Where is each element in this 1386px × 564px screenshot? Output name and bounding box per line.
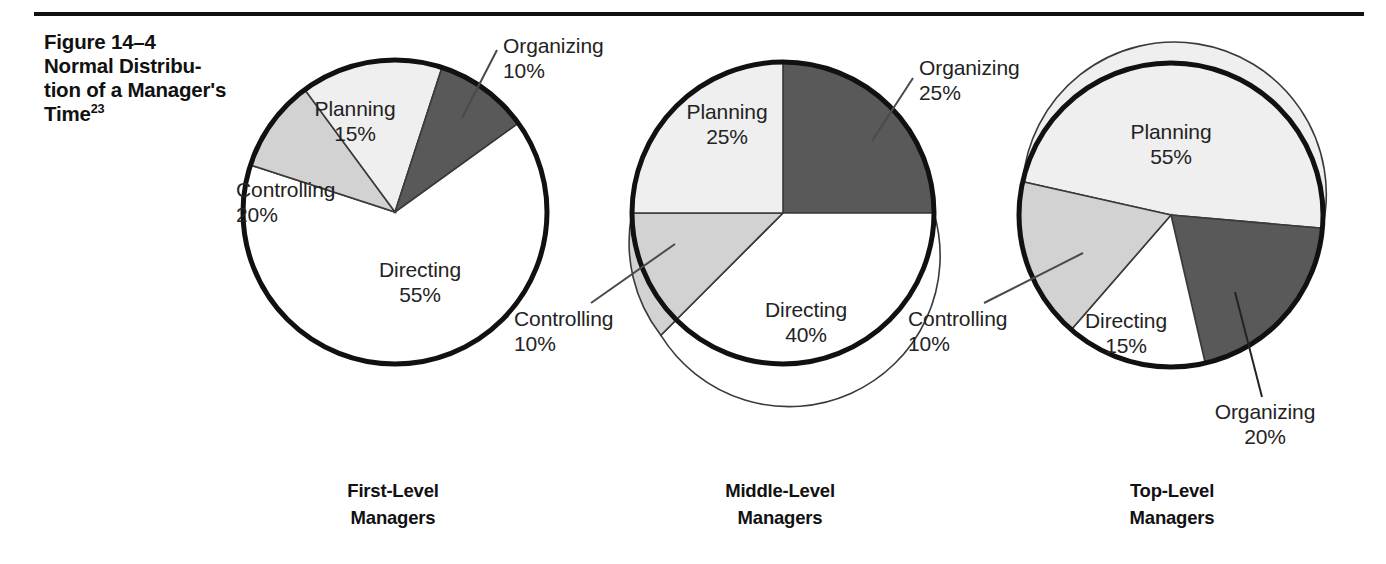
pie1-label-controlling: Controlling 20% xyxy=(236,177,335,228)
pie3-label-controlling: Controlling 10% xyxy=(908,306,1007,357)
pie2-organizing-name: Organizing xyxy=(919,56,1020,79)
pie3-label-planning: Planning 55% xyxy=(1131,119,1212,170)
pie2-directing-name: Directing xyxy=(765,298,847,321)
pie1-organizing-pct: 10% xyxy=(503,58,604,83)
pie2-planning-pct: 25% xyxy=(687,124,768,149)
pie1-label-directing: Directing 55% xyxy=(379,257,461,308)
pie3-planning-name: Planning xyxy=(1131,120,1212,143)
pie1-directing-name: Directing xyxy=(379,258,461,281)
pie2-directing-pct: 40% xyxy=(765,322,847,347)
pie2-planning-name: Planning xyxy=(687,100,768,123)
pie1-label-organizing: Organizing 10% xyxy=(503,33,604,84)
figure-container: Figure 14–4 Normal Distribu- tion of a M… xyxy=(0,0,1386,564)
pie1-organizing-name: Organizing xyxy=(503,34,604,57)
caption-top-level-line2: Managers xyxy=(1130,507,1215,528)
pie3-label-organizing: Organizing 20% xyxy=(1215,399,1316,450)
pie1-directing-pct: 55% xyxy=(379,282,461,307)
pie3-organizing-pct: 20% xyxy=(1215,424,1316,449)
pie2-controlling-pct: 10% xyxy=(514,331,613,356)
caption-first-level-managers: First-Level Managers xyxy=(347,478,438,532)
caption-middle-level-managers: Middle-Level Managers xyxy=(725,478,835,532)
pie2-label-controlling: Controlling 10% xyxy=(514,306,613,357)
pie1-label-planning: Planning 15% xyxy=(315,96,396,147)
pie2-label-directing: Directing 40% xyxy=(765,297,847,348)
pie1-planning-pct: 15% xyxy=(315,121,396,146)
pie3-directing-pct: 15% xyxy=(1085,333,1167,358)
caption-top-level-managers: Top-Level Managers xyxy=(1130,478,1215,532)
pie2-controlling-name: Controlling xyxy=(514,307,613,330)
pie3-label-directing: Directing 15% xyxy=(1085,308,1167,359)
pie1-controlling-pct: 20% xyxy=(236,202,335,227)
caption-first-level-line1: First-Level xyxy=(347,480,438,501)
caption-top-level-line1: Top-Level xyxy=(1130,480,1214,501)
pie2-organizing-pct: 25% xyxy=(919,80,1020,105)
pie3-controlling-name: Controlling xyxy=(908,307,1007,330)
pie3-controlling-pct: 10% xyxy=(908,331,1007,356)
pie3-planning-pct: 55% xyxy=(1131,144,1212,169)
pie1-controlling-name: Controlling xyxy=(236,178,335,201)
pie1-planning-name: Planning xyxy=(315,97,396,120)
pie2-label-planning: Planning 25% xyxy=(687,99,768,150)
caption-first-level-line2: Managers xyxy=(351,507,436,528)
pie3-organizing-name: Organizing xyxy=(1215,400,1316,423)
caption-middle-level-line1: Middle-Level xyxy=(725,480,835,501)
pie2-label-organizing: Organizing 25% xyxy=(919,55,1020,106)
pie3-directing-name: Directing xyxy=(1085,309,1167,332)
caption-middle-level-line2: Managers xyxy=(738,507,823,528)
